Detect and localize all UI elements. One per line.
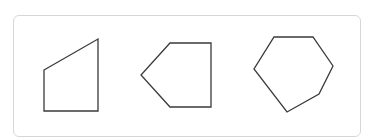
hexagon-shape [254, 37, 333, 112]
pentagon-shape [141, 43, 211, 107]
shapes-canvas [0, 0, 380, 140]
quadrilateral-shape [44, 39, 98, 111]
